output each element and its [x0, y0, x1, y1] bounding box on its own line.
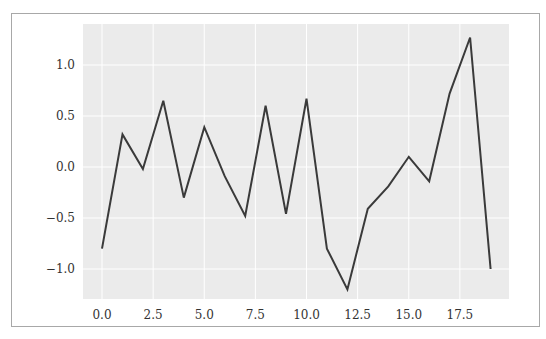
x-tick-label: 5.0: [195, 308, 214, 322]
y-tick-label: −1.0: [46, 262, 75, 276]
y-tick-label: 0.5: [56, 109, 75, 123]
x-tick-label: 2.5: [144, 308, 163, 322]
y-axis-tick-labels: −1.0−0.50.00.51.0: [46, 58, 75, 276]
y-tick-label: −0.5: [46, 211, 75, 225]
x-tick-label: 12.5: [344, 308, 371, 322]
x-tick-label: 15.0: [395, 308, 422, 322]
x-tick-label: 17.5: [447, 308, 474, 322]
x-tick-label: 7.5: [246, 308, 265, 322]
line-chart: 0.02.55.07.510.012.515.017.5 −1.0−0.50.0…: [12, 14, 541, 328]
figure-frame: 0.02.55.07.510.012.515.017.5 −1.0−0.50.0…: [11, 13, 540, 327]
x-axis-tick-labels: 0.02.55.07.510.012.515.017.5: [92, 308, 473, 322]
x-tick-label: 0.0: [92, 308, 111, 322]
y-tick-label: 0.0: [56, 160, 75, 174]
x-tick-label: 10.0: [293, 308, 320, 322]
y-tick-label: 1.0: [56, 58, 75, 72]
